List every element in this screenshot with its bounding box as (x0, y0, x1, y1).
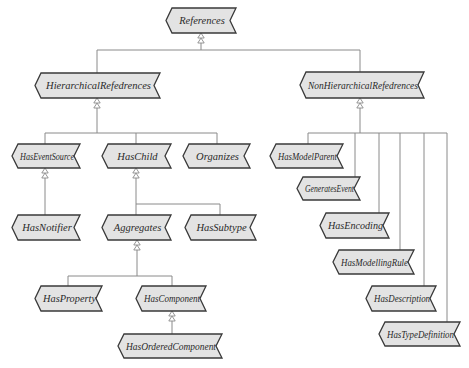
hollow-double-triangle-icon (94, 98, 100, 108)
node-organizes: Organizes (183, 144, 250, 168)
hollow-double-triangle-icon (42, 168, 48, 178)
node-label: HasModelParent (277, 151, 338, 162)
node-hasmodelparent: HasModelParent (270, 144, 343, 168)
node-nonhierarchical: NonHierarchicalRefedrences (300, 72, 424, 98)
node-hasorderedcomponent: HasOrderedComponent (118, 334, 222, 358)
node-hasencoding: HasEncoding (320, 213, 389, 238)
hollow-double-triangle-icon (134, 240, 140, 250)
node-references: References (166, 8, 236, 33)
node-label: GeneratesEvent (305, 183, 355, 194)
node-hastypedefinition: HasTypeDefinition (379, 322, 460, 346)
node-haseventsource: HasEventSource (12, 144, 80, 168)
node-label: HasNotifier (21, 222, 73, 233)
node-label: NonHierarchicalRefedrences (307, 80, 418, 91)
node-haschild: HasChild (102, 144, 171, 168)
node-aggregates: Aggregates (102, 215, 171, 240)
hollow-double-triangle-icon (169, 311, 175, 321)
node-label: Aggregates (113, 222, 161, 233)
node-hasproperty: HasProperty (35, 286, 102, 311)
hollow-double-triangle-icon (198, 33, 204, 43)
node-hierarchical: HierarchicalRefedrences (35, 73, 160, 98)
node-hasnotifier: HasNotifier (12, 215, 80, 240)
node-label: HasDescription (373, 293, 430, 304)
node-label: Organizes (196, 151, 239, 162)
node-label: HasChild (116, 151, 158, 162)
node-label: HasComponent (143, 293, 201, 304)
node-label: References (178, 15, 225, 26)
reference-type-diagram: ReferencesHierarchicalRefedrencesNonHier… (0, 0, 469, 368)
node-hasmodellingrule: HasModellingRule (333, 250, 414, 274)
node-generatesevent: GeneratesEvent (297, 177, 360, 200)
node-label: HasOrderedComponent (125, 341, 217, 352)
node-hascomponent: HasComponent (136, 286, 206, 311)
hollow-double-triangle-icon (133, 168, 139, 178)
node-hassubtype: HasSubtype (185, 215, 256, 240)
hollow-double-triangle-icon (357, 98, 363, 108)
reference-type-nodes: ReferencesHierarchicalRefedrencesNonHier… (12, 8, 460, 358)
node-label: HasModellingRule (340, 257, 408, 268)
node-label: HasSubtype (195, 222, 246, 233)
node-label: HasTypeDefinition (386, 329, 454, 340)
node-label: HasEventSource (19, 151, 74, 162)
node-label: HasProperty (42, 293, 96, 304)
node-hasdescription: HasDescription (366, 286, 436, 311)
node-label: HierarchicalRefedrences (45, 80, 151, 91)
node-label: HasEncoding (327, 220, 383, 231)
